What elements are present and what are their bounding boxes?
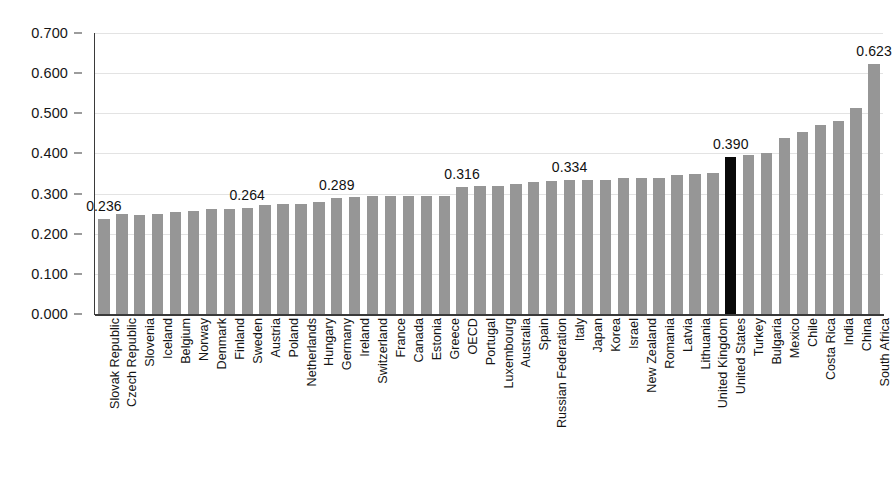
x-axis-label: United States [735, 318, 748, 394]
bar [313, 202, 324, 314]
y-axis-tick-mark [74, 314, 82, 315]
bar [564, 180, 575, 314]
gridline [95, 113, 883, 114]
y-axis-tick-label: 0.700 [31, 25, 68, 41]
x-axis-label: Mexico [789, 318, 802, 358]
x-axis-label: OECD [467, 318, 480, 355]
bar [224, 209, 235, 314]
x-axis-label: Israel [628, 318, 641, 349]
x-axis-label: Austria [270, 318, 283, 358]
gridline [95, 33, 883, 34]
bar-value-label: 0.623 [856, 43, 892, 59]
x-axis-labels: Slovak RepublicCzech RepublicSloveniaIce… [95, 318, 884, 498]
y-axis-tick-mark [74, 33, 82, 34]
bar [850, 108, 861, 314]
bar [242, 208, 253, 314]
bar [868, 64, 879, 314]
y-axis: 0.0000.1000.2000.3000.4000.5000.6000.700 [0, 0, 96, 330]
x-axis-label: Romania [664, 318, 677, 369]
x-axis-label: Denmark [216, 318, 229, 369]
x-axis-label: Slovak Republic [109, 318, 122, 409]
x-axis-label: Lithuania [700, 318, 713, 370]
plot-area [95, 33, 883, 314]
y-axis-tick-label: 0.000 [31, 306, 68, 322]
x-axis-label: Czech Republic [126, 318, 139, 407]
bar [98, 219, 109, 314]
x-axis-label: Finland [234, 318, 247, 360]
y-axis-tick-mark [74, 193, 82, 194]
gridline [95, 73, 883, 74]
bar [456, 187, 467, 314]
bar [779, 138, 790, 314]
x-axis-label: New Zealand [646, 318, 659, 393]
x-axis-label: South Africa [879, 318, 892, 387]
x-axis-label: Costa Rica [825, 318, 838, 380]
x-axis-label: Australia [520, 318, 533, 367]
bar [510, 184, 521, 314]
y-axis-tick-label: 0.400 [31, 145, 68, 161]
bar-value-label: 0.316 [444, 166, 480, 182]
x-axis-label: Turkey [753, 318, 766, 356]
bar [653, 178, 664, 314]
x-axis-label: Norway [198, 318, 211, 361]
x-axis-label: Switzerland [377, 318, 390, 384]
y-axis-tick-mark [74, 273, 82, 274]
bar [134, 215, 145, 314]
bar [277, 204, 288, 314]
bar [815, 125, 826, 314]
x-axis-label: France [395, 318, 408, 358]
x-axis-label: Korea [610, 318, 623, 352]
x-axis-label: Spain [538, 318, 551, 350]
x-axis-label: Chile [807, 318, 820, 347]
bar [474, 186, 485, 314]
x-axis-label: Belgium [180, 318, 193, 364]
x-axis-label: Netherlands [306, 318, 319, 386]
x-axis-label: Ireland [359, 318, 372, 357]
bar [152, 214, 163, 314]
bar [385, 196, 396, 314]
x-axis-line [95, 314, 884, 316]
bar [636, 178, 647, 314]
bar [689, 174, 700, 314]
bar [671, 175, 682, 314]
bar [206, 209, 217, 314]
bar [259, 205, 270, 314]
bar [761, 153, 772, 314]
bar [528, 182, 539, 314]
x-axis-label: Greece [449, 318, 462, 360]
x-axis-label: Poland [288, 318, 301, 358]
x-axis-label: Portugal [485, 318, 498, 365]
bar [349, 197, 360, 314]
x-axis-label: Latvia [682, 318, 695, 352]
bar [797, 132, 808, 314]
y-axis-tick-label: 0.600 [31, 65, 68, 81]
bar [492, 186, 503, 314]
bar [582, 180, 593, 314]
bar [403, 196, 414, 314]
x-axis-label: Germany [341, 318, 354, 370]
x-axis-label: India [843, 318, 856, 346]
x-axis-label: China [861, 318, 874, 351]
bar [295, 204, 306, 314]
x-axis-label: Luxembourg [503, 318, 516, 389]
x-axis-label: Iceland [162, 318, 175, 359]
bar-value-label: 0.264 [229, 187, 265, 203]
bar [439, 196, 450, 314]
y-axis-tick-label: 0.100 [31, 266, 68, 282]
bar [707, 173, 718, 314]
x-axis-label: Hungary [323, 318, 336, 366]
x-axis-label: United Kingdom [717, 318, 730, 408]
bar [170, 212, 181, 314]
y-axis-tick-label: 0.500 [31, 105, 68, 121]
y-axis-tick-label: 0.200 [31, 226, 68, 242]
bar-value-label: 0.390 [713, 136, 749, 152]
bar [421, 196, 432, 314]
x-axis-label: Russian Federation [556, 318, 569, 428]
x-axis-label: Slovenia [144, 318, 157, 367]
bar [367, 196, 378, 314]
y-axis-tick-mark [74, 233, 82, 234]
bar [833, 121, 844, 314]
bar-value-label: 0.289 [319, 177, 355, 193]
x-axis-label: Canada [413, 318, 426, 362]
